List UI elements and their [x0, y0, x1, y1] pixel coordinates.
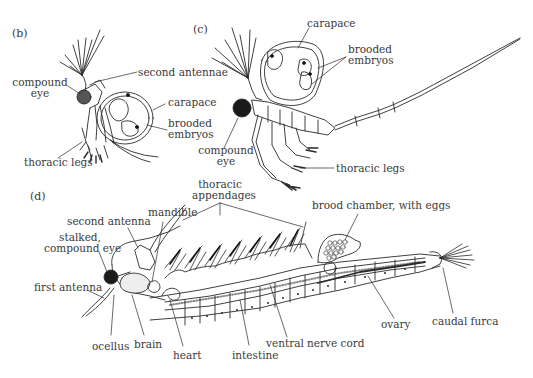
- label-d-second-antenna: second antenna: [67, 216, 151, 227]
- label-b-second-antennae: second antennae: [138, 67, 228, 78]
- leader-d-second-antenna: [128, 228, 138, 248]
- label-c-carapace: carapace: [307, 18, 356, 29]
- label-c-thoracic-legs: thoracic legs: [336, 163, 405, 174]
- panel-b-organism: [60, 30, 158, 163]
- leader-b-compound-eye: [68, 86, 80, 94]
- label-c-compound-eye: compound eye: [198, 145, 254, 167]
- label-d-caudal-furca: caudal furca: [432, 316, 498, 327]
- label-b-compound-eye: compound eye: [12, 77, 68, 99]
- panel-b-letter: (b): [12, 28, 28, 39]
- label-d-brood-chamber: brood chamber, with eggs: [312, 200, 451, 211]
- label-b-brooded-embryos: brooded embryos: [168, 118, 214, 140]
- label-d-stalked-compound-eye: stalked, compound eye: [44, 232, 116, 254]
- leader-d-stalked-eye: [99, 252, 107, 272]
- label-d-ocellus: ocellus: [92, 341, 129, 352]
- label-d-first-antenna: first antenna: [34, 282, 102, 293]
- label-d-mandible: mandible: [148, 207, 197, 218]
- label-d-ovary: ovary: [381, 319, 410, 330]
- leader-d-thoracic-appendages: [183, 203, 303, 227]
- label-d-ventral-nerve-cord: ventral nerve cord: [266, 338, 365, 349]
- leader-c-brooded-embryos-1: [318, 57, 346, 68]
- label-b-carapace: carapace: [168, 97, 217, 108]
- leader-d-heart: [170, 300, 183, 346]
- label-d-intestine: intestine: [232, 350, 279, 361]
- leader-d-ovary: [368, 276, 394, 318]
- label-d-thoracic-appendages: thoracic appendages: [192, 179, 248, 201]
- leader-d-mandible: [152, 222, 163, 282]
- leader-d-brood-chamber: [345, 214, 358, 240]
- leader-d-ventral-nerve-cord: [270, 285, 287, 337]
- leader-c-brooded-embryos-2: [312, 57, 346, 84]
- leader-d-ocellus: [111, 295, 114, 335]
- leader-c-carapace: [298, 28, 309, 48]
- panel-d-letter: (d): [30, 191, 46, 202]
- label-c-brooded-embryos: brooded embryos: [348, 44, 394, 66]
- crustacean-anatomy-figure: (b) second antennae compound eye carapac…: [0, 0, 533, 378]
- panel-c-letter: (c): [193, 24, 208, 35]
- leader-b-carapace: [153, 104, 165, 110]
- label-d-heart: heart: [173, 350, 201, 361]
- label-d-brain: brain: [134, 339, 162, 350]
- leader-b-second-antennae: [95, 72, 137, 82]
- label-b-thoracic-legs: thoracic legs: [24, 157, 93, 168]
- leader-d-brain: [132, 295, 144, 335]
- leader-d-caudal-furca: [443, 268, 453, 313]
- leader-d-intestine: [240, 300, 249, 345]
